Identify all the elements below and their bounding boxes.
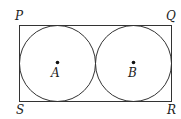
label-b: B bbox=[127, 66, 137, 80]
label-q: Q bbox=[166, 9, 176, 23]
label-s: S bbox=[16, 103, 24, 117]
center-point-a bbox=[56, 61, 60, 65]
label-a: A bbox=[50, 66, 60, 80]
label-p: P bbox=[14, 9, 24, 23]
label-r: R bbox=[166, 103, 176, 117]
center-point-b bbox=[132, 61, 136, 65]
diagram: P Q S R A B bbox=[0, 0, 181, 119]
